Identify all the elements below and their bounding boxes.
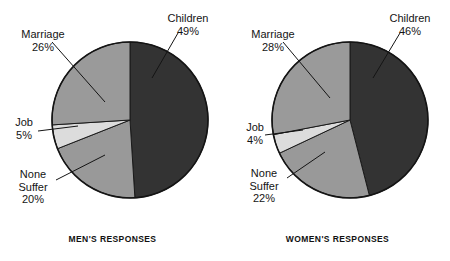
pie-slice-marriage — [272, 42, 350, 135]
label-women-none-suffer: None Suffer 22% — [233, 167, 295, 205]
pie-slice-marriage — [52, 42, 130, 125]
label-men-job: Job 5% — [2, 116, 46, 141]
label-women-job-text: Job — [246, 121, 264, 133]
label-men-none-suffer: None Suffer 20% — [2, 168, 64, 206]
pie-slice-children — [130, 42, 208, 198]
label-women-job-pct: 4% — [233, 134, 277, 147]
label-women-children: Children 46% — [377, 12, 443, 37]
mens-responses-panel: Marriage 26% Job 5% None Suffer 20% Chil… — [0, 0, 225, 261]
label-men-job-pct: 5% — [2, 129, 46, 142]
label-women-marriage-text: Marriage — [251, 28, 294, 40]
label-women-job: Job 4% — [233, 121, 277, 146]
label-men-children-text: Children — [168, 12, 209, 24]
label-men-none-suffer-text-line1: None — [20, 168, 46, 180]
label-women-marriage: Marriage 28% — [233, 28, 313, 53]
caption-womens-responses: WOMEN'S RESPONSES — [225, 234, 450, 244]
pie-chart-figure: Marriage 26% Job 5% None Suffer 20% Chil… — [0, 0, 450, 261]
label-men-children-pct: 49% — [155, 25, 221, 38]
label-men-none-suffer-text-line2: Suffer — [2, 181, 64, 194]
label-women-children-text: Children — [390, 12, 431, 24]
label-women-none-suffer-text-line1: None — [251, 167, 277, 179]
label-men-job-text: Job — [15, 116, 33, 128]
label-men-children: Children 49% — [155, 12, 221, 37]
caption-mens-responses: MEN'S RESPONSES — [0, 234, 225, 244]
label-women-children-pct: 46% — [377, 25, 443, 38]
label-women-none-suffer-text-line2: Suffer — [233, 180, 295, 193]
label-women-marriage-pct: 28% — [233, 41, 313, 54]
label-men-marriage-text: Marriage — [21, 28, 64, 40]
label-women-none-suffer-pct: 22% — [233, 192, 295, 205]
womens-responses-panel: Marriage 28% Job 4% None Suffer 22% Chil… — [225, 0, 450, 261]
label-men-marriage-pct: 26% — [4, 41, 82, 54]
label-men-marriage: Marriage 26% — [4, 28, 82, 53]
label-men-none-suffer-pct: 20% — [2, 193, 64, 206]
